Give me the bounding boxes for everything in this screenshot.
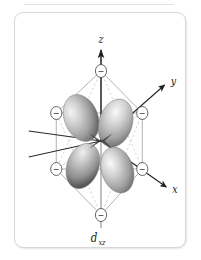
lobe-lower-left	[59, 136, 106, 196]
octahedron-wireframe	[56, 71, 142, 215]
ligand-charge-label: −	[139, 108, 145, 119]
ligand-upper-right[interactable]: −	[137, 107, 148, 120]
ligand-bottom[interactable]: −	[95, 209, 106, 222]
diagram-canvas: − − − − −	[15, 13, 185, 247]
axis-label-x: x	[172, 182, 178, 195]
figure-frame: − − − − −	[14, 12, 186, 248]
ligand-upper-left[interactable]: −	[51, 107, 62, 120]
orbital-lobes	[56, 87, 140, 200]
ligand-charge-label: −	[98, 66, 104, 77]
lobe-upper-right	[92, 92, 140, 154]
axis-label-y: y	[170, 74, 176, 87]
orbital-diagram-svg: − − − − −	[15, 13, 186, 248]
octahedron-visible-edges	[56, 71, 142, 215]
ligand-lower-right[interactable]: −	[137, 163, 148, 176]
axis-label-z: z	[98, 32, 104, 45]
ligand-group: − − − − −	[51, 65, 148, 222]
page-edge-artifact	[24, 0, 174, 5]
orbital-caption-base: d	[91, 231, 98, 245]
ligand-charge-label: −	[139, 164, 145, 175]
octahedron-hidden-edges	[56, 71, 142, 215]
ligand-charge-label: −	[53, 108, 59, 119]
ligand-charge-label: −	[53, 164, 59, 175]
ligand-charge-label: −	[98, 210, 104, 221]
orbital-caption-subscript: xz	[98, 239, 105, 248]
orbital-caption: d xz	[91, 231, 106, 247]
ligand-top[interactable]: −	[95, 65, 106, 78]
ligand-lower-left[interactable]: −	[51, 163, 62, 176]
